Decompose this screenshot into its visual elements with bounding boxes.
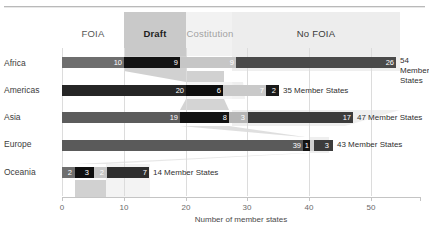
x-tick-label-50: 50 [361,203,381,212]
segment-value: 3 [85,169,89,177]
segment-value: 8 [223,114,227,122]
segment-africa-foia[interactable]: 10 [62,57,124,68]
x-tick-label-30: 30 [237,203,257,212]
segment-asia-foia[interactable]: 19 [62,112,180,123]
tick-end [420,197,421,201]
x-axis-title: Number of member states [131,215,351,224]
segment-value: 7 [260,87,264,95]
segment-europe-no-foia[interactable]: 3 [314,140,333,151]
bar-europe[interactable]: 39 1 3 [62,140,328,151]
segment-oceania-costitution[interactable]: 2 [94,167,107,178]
segment-value: 39 [293,142,301,150]
chart-root: FOIA Draft Costitution No FOIA [0,0,429,233]
row-total-africa-line2: Member [400,66,429,76]
row-total-europe: 43 Member States [337,140,402,150]
segment-value: 3 [325,142,329,150]
x-tick-label-40: 40 [299,203,319,212]
segment-value: 19 [170,114,178,122]
segment-oceania-foia[interactable]: 2 [62,167,75,178]
row-label-oceania: Oceania [4,167,36,177]
top-rule-shadow [4,7,425,8]
tick-50 [371,197,372,201]
header-label-foia: FOIA [62,28,124,39]
segment-europe-foia[interactable]: 39 [62,140,303,151]
segment-value: 2 [100,169,104,177]
tick-40 [309,197,310,201]
segment-asia-no-foia[interactable]: 17 [248,112,353,123]
segment-value: 20 [176,87,184,95]
bar-africa[interactable]: 10 9 9 26 [62,57,396,68]
row-label-asia: Asia [4,112,21,122]
tick-20 [186,197,187,201]
segment-value: 9 [230,59,234,67]
segment-value: 2 [68,169,72,177]
segment-africa-draft[interactable]: 9 [124,57,180,68]
row-total-americas: 35 Member States [283,86,348,96]
segment-oceania-draft[interactable]: 3 [75,167,94,178]
segment-americas-draft[interactable]: 6 [186,85,223,96]
header-label-no-foia: No FOIA [232,28,400,39]
x-tick-label-0: 0 [52,203,72,212]
row-label-africa: Africa [4,58,26,68]
row-label-europe: Europe [4,139,31,149]
row-total-africa-line1: 54 [400,56,409,66]
segment-value: 1 [305,142,309,150]
segment-value: 2 [272,87,276,95]
segment-americas-costitution[interactable]: 7 [223,85,266,96]
segment-value: 17 [343,114,351,122]
segment-value: 10 [114,59,122,67]
x-axis-line [62,197,420,198]
segment-africa-no-foia[interactable]: 26 [236,57,396,68]
segment-oceania-no-foia[interactable]: 7 [107,167,149,178]
segment-value: 6 [217,87,221,95]
segment-asia-draft[interactable]: 8 [180,112,229,123]
x-tick-label-20: 20 [176,203,196,212]
tick-0 [62,197,63,201]
segment-europe-draft[interactable]: 1 [303,140,310,151]
segment-value: 26 [386,59,394,67]
tick-30 [247,197,248,201]
header-label-draft: Draft [124,28,186,39]
segment-americas-foia[interactable]: 20 [62,85,186,96]
bar-oceania[interactable]: 2 3 2 7 [62,167,149,178]
bar-asia[interactable]: 19 8 3 17 [62,112,353,123]
segment-value: 7 [143,169,147,177]
segment-africa-costitution[interactable]: 9 [180,57,236,68]
x-tick-label-10: 10 [114,203,134,212]
bar-americas[interactable]: 20 6 7 2 [62,85,279,96]
tick-10 [124,197,125,201]
segment-value: 9 [174,59,178,67]
segment-americas-no-foia[interactable]: 2 [266,85,279,96]
header-label-costitution: Costitution [182,28,238,39]
segment-value: 3 [241,114,245,122]
row-total-africa-line3: States [400,76,423,86]
row-total-oceania: 14 Member States [153,168,218,178]
segment-asia-costitution[interactable]: 3 [229,112,248,123]
row-total-asia: 47 Member States [357,113,422,123]
row-label-americas: Americas [4,85,39,95]
